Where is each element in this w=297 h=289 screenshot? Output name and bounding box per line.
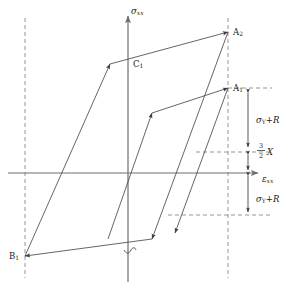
point-label-c1: C1: [133, 59, 143, 69]
curve-inner-upper-branch: [152, 88, 228, 113]
point-label-a2: A2: [232, 27, 243, 37]
reference-dashed-lines: [25, 18, 272, 278]
hysteresis-diagram: σxx εxx A2 C1 A1 B1 σY+R: [0, 0, 297, 289]
y-axis-label: σxx: [131, 6, 144, 16]
curve-outer-unload-steep: [152, 32, 228, 239]
hysteresis-curves: [25, 32, 228, 256]
dim-label-backstress-fraction: 3 2 X: [257, 142, 274, 160]
x-axis-label: εxx: [262, 174, 274, 184]
fraction-numerator: 3: [259, 142, 263, 150]
point-label-b1: B1: [9, 251, 19, 261]
dim-label-lower-sigma: σY+R: [256, 194, 280, 204]
figure-container: σxx εxx A2 C1 A1 B1 σY+R: [0, 0, 297, 289]
axes-group: [8, 16, 258, 282]
fraction-denominator: 2: [259, 152, 263, 160]
curve-inner-unload: [175, 88, 228, 233]
point-label-a1: A1: [232, 83, 243, 93]
curve-inner-lower-branch: [108, 113, 152, 239]
dimension-labels: σY+R σY+R 3 2 X: [256, 115, 280, 204]
curve-outer-lower-branch: [25, 64, 110, 256]
fraction-variable: X: [266, 147, 274, 157]
break-squiggle-icon: [124, 248, 136, 253]
dim-label-upper-sigma: σY+R: [256, 115, 280, 125]
